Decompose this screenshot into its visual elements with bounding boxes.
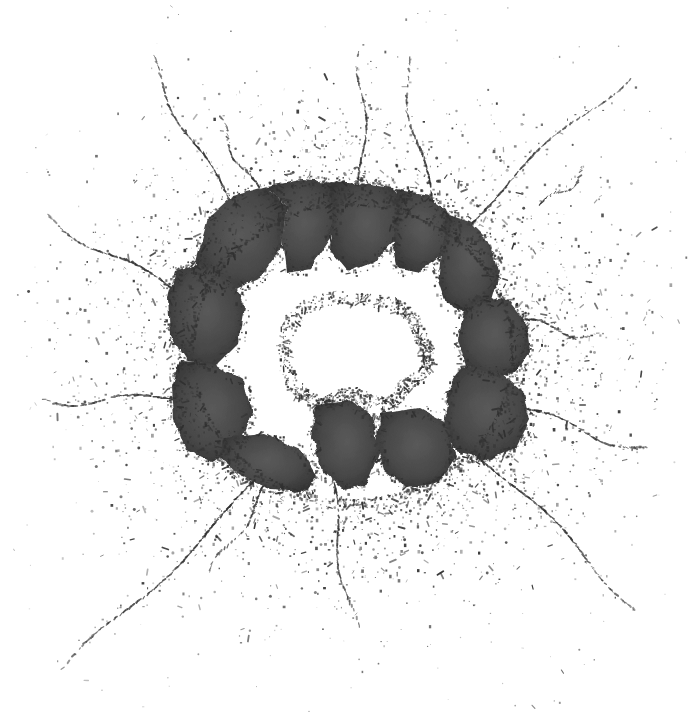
shattered-glass-illustration	[0, 0, 689, 717]
image-canvas	[0, 0, 689, 717]
